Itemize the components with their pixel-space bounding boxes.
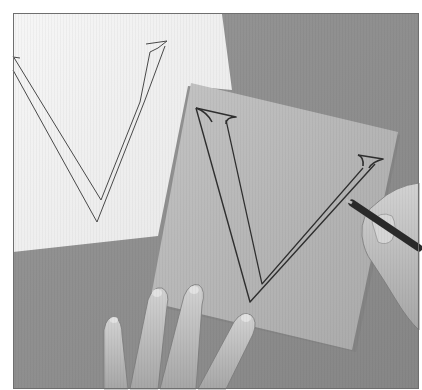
photograph: [0, 0, 422, 390]
photo-canvas: [0, 0, 422, 390]
